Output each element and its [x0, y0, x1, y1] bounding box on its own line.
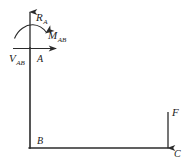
label-reaction-horizontal: VAB: [9, 52, 26, 67]
node-label-A: A: [36, 53, 44, 64]
label-R-subscript: A: [42, 18, 48, 26]
label-R-symbol: R: [35, 11, 43, 23]
label-V-subscript: AB: [15, 59, 25, 67]
label-reaction-vertical: RA: [35, 11, 48, 26]
label-applied-load: F: [171, 106, 179, 118]
node-label-B: B: [37, 135, 43, 146]
label-M-subscript: AB: [57, 36, 67, 44]
load-labels: RA MAB VAB F: [9, 11, 179, 118]
diagram-canvas: RA MAB VAB F A B C: [0, 0, 190, 162]
node-label-C: C: [174, 148, 181, 159]
free-body-diagram: RA MAB VAB F A B C: [0, 0, 190, 162]
node-labels: A B C: [36, 53, 181, 159]
label-M-symbol: M: [47, 29, 58, 41]
label-reaction-moment: MAB: [47, 29, 67, 44]
frame-members: [29, 48, 168, 148]
